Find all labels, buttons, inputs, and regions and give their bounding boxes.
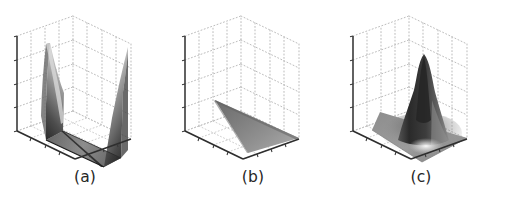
panel-caption-b: (b): [168, 168, 338, 187]
panel-c: (c): [336, 0, 506, 207]
surface-mesh-b: [214, 100, 299, 153]
surface-plot-a: [0, 0, 170, 170]
panel-b: (b): [168, 0, 338, 207]
figure-canvas: (a): [0, 0, 510, 207]
panel-caption-a: (a): [0, 168, 170, 187]
panel-caption-c: (c): [336, 168, 506, 187]
panel-a: (a): [0, 0, 170, 207]
surface-plot-c: [336, 0, 506, 170]
surface-plot-b: [168, 0, 338, 170]
